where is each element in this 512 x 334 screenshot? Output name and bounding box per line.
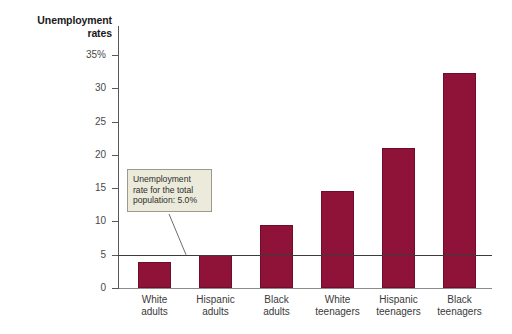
reference-line-5-percent — [118, 255, 492, 256]
y-axis-tick-25 — [112, 122, 119, 123]
chart-title-line-2: rates — [8, 27, 112, 40]
y-axis-label-25: 25 — [42, 117, 106, 127]
chart-title-line-1: Unemployment — [8, 14, 112, 27]
y-axis-line — [118, 26, 119, 289]
x-label-line-2: teenagers — [423, 306, 496, 318]
x-label-line-1: Black — [423, 294, 496, 306]
y-axis-label-30: 30 — [42, 83, 106, 93]
bar-white-teenagers — [321, 191, 354, 288]
y-axis-tick-35 — [112, 55, 119, 56]
unemployment-rates-bar-chart: Unemployment rates 05101520253035% Unemp… — [0, 0, 512, 334]
x-axis-line — [118, 288, 492, 289]
y-axis-label-5: 5 — [42, 250, 106, 260]
y-axis-tick-30 — [112, 88, 119, 89]
callout-line-1: Unemployment — [133, 174, 191, 184]
callout-line-3: population: 5.0% — [133, 195, 197, 205]
y-axis-label-20: 20 — [42, 150, 106, 160]
bar-hispanic-teenagers — [382, 148, 415, 288]
bar-white-adults — [138, 262, 171, 288]
bar-black-adults — [260, 225, 293, 288]
y-axis-tick-20 — [112, 155, 119, 156]
y-axis-label-15: 15 — [42, 183, 106, 193]
y-axis-label-10: 10 — [42, 216, 106, 226]
x-label-black-teenagers: Blackteenagers — [423, 294, 496, 317]
bar-hispanic-adults — [199, 255, 232, 288]
y-axis-tick-15 — [112, 188, 119, 189]
y-axis-tick-0 — [112, 288, 119, 289]
y-axis-label-35: 35% — [42, 50, 106, 60]
callout-line-2: rate for the total — [133, 185, 193, 195]
reference-line-callout: Unemployment rate for the total populati… — [127, 169, 212, 212]
y-axis-tick-10 — [112, 221, 119, 222]
y-axis-label-0: 0 — [42, 283, 106, 293]
chart-title: Unemployment rates — [8, 14, 112, 39]
